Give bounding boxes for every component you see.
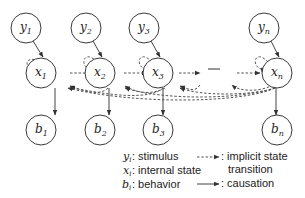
- edge-y2-x2: [93, 41, 102, 57]
- behavior-node-2: b2: [85, 115, 115, 145]
- legend-label: : implicit state: [221, 150, 288, 162]
- legend-label: : stimulus: [132, 150, 179, 162]
- legend-label: : internal state: [132, 164, 201, 176]
- legend-dashed-edge: : implicit state transition: [197, 150, 288, 175]
- edge-y3-x3: [151, 41, 160, 57]
- legend-behavior: bi : behavior: [122, 178, 181, 192]
- state-node-2: x2: [85, 58, 115, 88]
- state-node-n: xn: [262, 58, 292, 88]
- state-node-1: x1: [26, 58, 56, 88]
- legend-label-cont: transition: [228, 163, 273, 175]
- stimulus-node-3: y3: [129, 13, 159, 43]
- behavior-node-3: b3: [143, 115, 173, 145]
- edge-xn-ellipsis: [232, 85, 273, 90]
- legend: yi : stimulus xi : internal state bi : b…: [122, 150, 288, 192]
- legend-symbol: xi: [123, 164, 131, 178]
- legend-internal-state: xi : internal state: [123, 164, 201, 178]
- edge-y1-x1: [33, 41, 43, 57]
- stimulus-node-n: yn: [249, 13, 279, 43]
- legend-symbol: bi: [122, 178, 131, 192]
- edge-yn-xn: [271, 41, 279, 57]
- state-transition-diagram: y1y2y3ynx1x2x3xnb1b2b3bn yi : stimulus x…: [0, 0, 305, 198]
- behavior-node-n: bn: [262, 115, 292, 145]
- legend-stimulus: yi : stimulus: [122, 150, 179, 164]
- legend-label: : behavior: [132, 178, 181, 190]
- behavior-node-1: b1: [26, 115, 56, 145]
- stimulus-node-2: y2: [71, 13, 101, 43]
- edge-x3-x1: [70, 87, 163, 95]
- legend-label: : causation: [221, 177, 274, 189]
- stimulus-node-1: y1: [11, 13, 41, 43]
- nodes: y1y2y3ynx1x2x3xnb1b2b3bn: [11, 13, 292, 145]
- legend-symbol: yi: [122, 150, 131, 164]
- state-node-3: x3: [143, 58, 173, 88]
- legend-solid-edge: : causation: [197, 177, 274, 189]
